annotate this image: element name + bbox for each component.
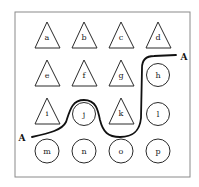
svg-text:a: a (45, 33, 50, 42)
svg-text:p: p (155, 147, 160, 156)
svg-text:d: d (155, 33, 160, 42)
svg-text:o: o (119, 147, 124, 156)
shape-g: g (109, 60, 134, 86)
svg-text:l: l (157, 110, 160, 119)
svg-text:i: i (46, 109, 49, 118)
svg-text:n: n (81, 147, 86, 156)
shape-i: i (35, 98, 60, 124)
shape-grid-diagram: a b c d e f g h i j k l (0, 0, 199, 187)
shape-p: p (146, 139, 170, 163)
shape-a: a (35, 22, 60, 48)
shape-o: o (109, 139, 133, 163)
frame (15, 12, 190, 177)
shape-n: n (72, 139, 96, 163)
svg-text:k: k (119, 109, 124, 118)
svg-text:f: f (83, 71, 87, 80)
shape-m: m (35, 139, 59, 163)
shape-d: d (146, 22, 171, 48)
path-label-start: A (18, 133, 27, 143)
svg-text:c: c (119, 33, 124, 42)
shape-c: c (109, 22, 134, 48)
svg-text:h: h (155, 71, 160, 80)
shape-k: k (109, 98, 134, 124)
shape-b: b (72, 22, 97, 48)
path-label-end: A (180, 52, 189, 62)
svg-text:m: m (43, 147, 51, 156)
shape-j: j (73, 103, 96, 126)
shape-h: h (147, 64, 170, 87)
shape-f: f (72, 60, 97, 86)
shape-e: e (35, 60, 60, 86)
svg-text:g: g (118, 71, 123, 80)
svg-text:j: j (82, 110, 85, 119)
shape-l: l (147, 103, 170, 126)
svg-text:e: e (45, 71, 50, 80)
svg-text:b: b (81, 33, 86, 42)
